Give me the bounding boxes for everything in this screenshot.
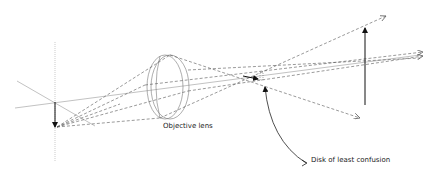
ray-diagram xyxy=(0,0,438,175)
disk-pointer-curve xyxy=(265,87,306,163)
objective-lens xyxy=(147,55,189,119)
objective-lens-label: Objective lens xyxy=(163,122,213,130)
optical-axis xyxy=(15,55,420,108)
disk-pointer-tail-icon xyxy=(302,160,307,166)
tilted-reference-line xyxy=(17,81,95,126)
disk-of-least-confusion-label: Disk of least confusion xyxy=(311,156,390,164)
incident-rays xyxy=(57,55,188,127)
